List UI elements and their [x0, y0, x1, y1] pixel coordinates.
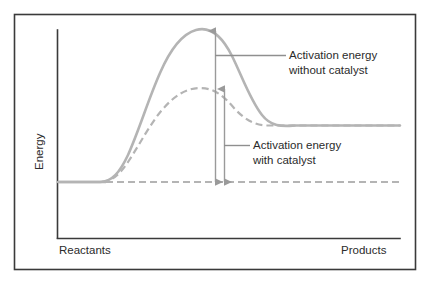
x-axis-label-reactants: Reactants: [59, 244, 111, 256]
activation-energy-figure: Energy Reactants Products Activation ene…: [0, 0, 430, 284]
annotation-with-catalyst-line2: with catalyst: [252, 154, 316, 166]
y-axis-label: Energy: [33, 133, 45, 170]
annotation-with-catalyst-line1: Activation energy: [253, 139, 341, 151]
annotation-without-catalyst-line2: without catalyst: [288, 64, 368, 76]
annotation-without-catalyst-line1: Activation energy: [289, 49, 377, 61]
reaction-coordinate-chart: Energy Reactants Products Activation ene…: [0, 0, 430, 284]
x-axis-label-products: Products: [341, 244, 387, 256]
